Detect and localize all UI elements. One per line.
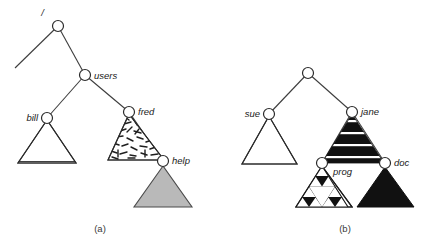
subtree-doc[interactable] bbox=[357, 167, 414, 207]
node-doc[interactable] bbox=[380, 158, 391, 169]
node-help[interactable] bbox=[158, 156, 169, 167]
edge-root-left-stub bbox=[15, 26, 58, 68]
node-label-root: / bbox=[40, 7, 45, 18]
subtree-sue[interactable] bbox=[242, 116, 297, 164]
node-users[interactable] bbox=[80, 70, 91, 81]
diagram-b: sue jane prog doc bbox=[242, 68, 414, 208]
subtree-bill-triangle bbox=[18, 120, 76, 163]
edge-root-jane bbox=[308, 73, 352, 112]
node-label-doc: doc bbox=[394, 157, 410, 168]
node-prog[interactable] bbox=[317, 158, 328, 169]
node-label-sue: sue bbox=[245, 108, 260, 119]
subtree-help-triangle bbox=[134, 166, 192, 207]
edge-root-sue bbox=[269, 73, 308, 114]
node-bill[interactable] bbox=[42, 113, 53, 124]
node-label-help: help bbox=[172, 155, 190, 166]
figure-container: / users bill fred help bbox=[0, 0, 426, 246]
subtree-bill[interactable] bbox=[18, 120, 76, 163]
subtree-jane[interactable] bbox=[322, 114, 384, 163]
caption-b: (b) bbox=[339, 223, 351, 234]
node-sue[interactable] bbox=[264, 109, 275, 120]
figure-captions: (a) (b) bbox=[94, 223, 351, 234]
subtree-jane-triangle bbox=[322, 114, 384, 163]
tree-figure: / users bill fred help bbox=[0, 0, 426, 246]
node-root-b[interactable] bbox=[303, 68, 314, 79]
node-fred[interactable] bbox=[124, 107, 135, 118]
diagram-a: / users bill fred help bbox=[15, 7, 192, 207]
edge-root-users bbox=[58, 26, 85, 75]
edge-users-bill bbox=[47, 75, 85, 118]
subtree-help[interactable] bbox=[134, 166, 192, 207]
subtree-doc-triangle bbox=[357, 167, 414, 207]
node-jane[interactable] bbox=[347, 107, 358, 118]
node-label-users: users bbox=[94, 70, 117, 81]
node-label-bill: bill bbox=[26, 112, 39, 123]
node-root[interactable] bbox=[53, 21, 64, 32]
subtree-sue-triangle bbox=[242, 116, 297, 164]
node-label-jane: jane bbox=[359, 106, 379, 117]
caption-a: (a) bbox=[94, 223, 106, 234]
subtree-fred[interactable] bbox=[108, 114, 164, 160]
node-label-prog: prog bbox=[332, 166, 353, 177]
node-label-fred: fred bbox=[138, 106, 155, 117]
